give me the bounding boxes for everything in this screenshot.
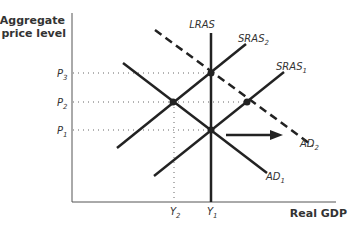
sras1-curve [154, 72, 284, 176]
ad-as-diagram: Aggregate price level Real GDP LRAS SRAS… [0, 0, 354, 228]
lras-label: LRAS [189, 19, 215, 30]
p2-label: P2 [57, 97, 68, 111]
point-p2-left [170, 99, 177, 106]
ad1-label: AD1 [265, 171, 285, 185]
ad2-curve [155, 30, 313, 146]
y1-label: Y1 [207, 206, 218, 220]
ad1-curve [123, 63, 267, 173]
point-p3 [208, 70, 215, 77]
p1-label: P1 [57, 125, 68, 139]
y-axis-title-line2: price level [1, 27, 66, 40]
p3-label: P3 [57, 68, 68, 82]
point-p1 [208, 127, 215, 134]
y-axis-title-line1: Aggregate [0, 14, 65, 27]
sras1-label: SRAS1 [276, 61, 307, 75]
y2-label: Y2 [170, 206, 181, 220]
ad2-label: AD2 [299, 138, 320, 152]
sras2-label: SRAS2 [238, 33, 269, 47]
shift-arrow-icon [226, 130, 283, 140]
point-p2-right [244, 99, 251, 106]
sras2-curve [117, 44, 246, 148]
x-axis-title: Real GDP [290, 207, 347, 220]
